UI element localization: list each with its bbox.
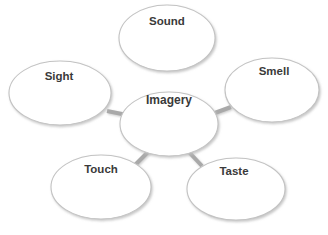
node-touch[interactable]: Touch [51, 155, 151, 219]
node-imagery[interactable]: Imagery [120, 92, 218, 156]
concept-map-diagram: SoundSmellSightTouchTasteImagery [0, 0, 328, 235]
nodes-layer: SoundSmellSightTouchTasteImagery [9, 5, 319, 220]
node-smell[interactable]: Smell [225, 58, 319, 122]
node-label-taste: Taste [219, 165, 248, 177]
node-label-touch: Touch [84, 163, 118, 175]
node-sight[interactable]: Sight [9, 61, 111, 125]
node-label-smell: Smell [259, 65, 290, 77]
node-taste[interactable]: Taste [187, 158, 285, 220]
node-sound[interactable]: Sound [119, 5, 215, 71]
node-label-imagery: Imagery [146, 93, 192, 107]
node-label-sound: Sound [149, 15, 185, 27]
node-label-sight: Sight [45, 70, 74, 82]
diagram-canvas: SoundSmellSightTouchTasteImagery [0, 0, 328, 235]
